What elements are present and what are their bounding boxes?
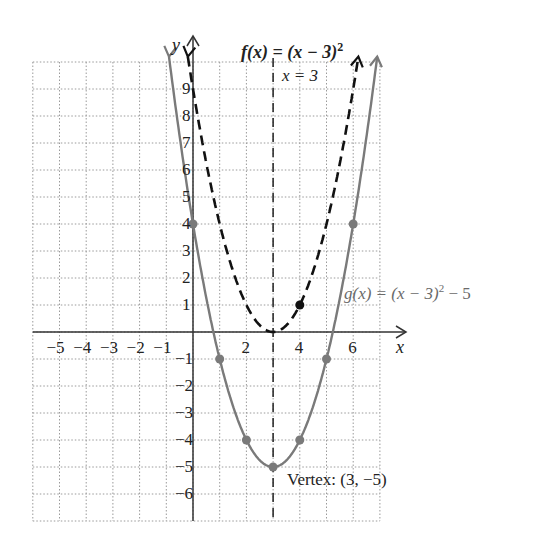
y-tick-label: 6 (182, 161, 191, 178)
g-point (242, 436, 251, 445)
vertex-label: Vertex: (3, −5) (287, 471, 387, 488)
axis-of-symmetry-label: x = 3 (282, 67, 318, 84)
y-tick-label: −5 (175, 458, 193, 475)
f-function-text: f(x) = (x − 3) (241, 42, 337, 62)
g-function-text: g(x) = (x − 3) (344, 284, 439, 303)
g-point (295, 436, 304, 445)
y-axis-label: y (172, 36, 180, 54)
x-tick-label: −5 (47, 339, 65, 356)
g-point (215, 355, 224, 364)
y-tick-label: 7 (182, 134, 191, 151)
f-function-exponent: 2 (337, 40, 343, 54)
y-tick-label: −3 (175, 404, 193, 421)
x-tick-label: 4 (295, 339, 304, 356)
y-tick-label: 9 (182, 80, 191, 97)
y-tick-label: 5 (182, 188, 191, 205)
g-function-tail: − 5 (444, 284, 471, 303)
y-tick-label: 3 (182, 242, 191, 259)
x-tick-label: 2 (241, 339, 250, 356)
x-axis-label: x (396, 338, 404, 356)
g-point (349, 220, 358, 229)
f-point (295, 301, 304, 310)
y-tick-label: −2 (175, 377, 193, 394)
x-tick-label: −3 (100, 339, 118, 356)
y-tick-label: −4 (175, 431, 193, 448)
x-tick-label: −2 (127, 339, 145, 356)
x-tick-label: −1 (153, 339, 171, 356)
y-tick-label: 4 (182, 215, 191, 232)
g-point (322, 355, 331, 364)
g-function-label: g(x) = (x − 3)2 − 5 (344, 283, 471, 302)
x-tick-label: 6 (348, 339, 357, 356)
y-tick-label: 8 (182, 107, 191, 124)
x-tick-label: −4 (73, 339, 91, 356)
g-point (269, 463, 278, 472)
y-tick-label: −1 (175, 350, 193, 367)
grid-lines (33, 62, 380, 521)
f-function-label: f(x) = (x − 3)2 (241, 41, 343, 61)
y-tick-label: 1 (182, 296, 191, 313)
y-tick-label: −6 (175, 485, 193, 502)
axis-of-symmetry-text: x = 3 (282, 66, 318, 85)
graph-canvas (0, 0, 538, 538)
y-tick-label: 2 (182, 269, 191, 286)
